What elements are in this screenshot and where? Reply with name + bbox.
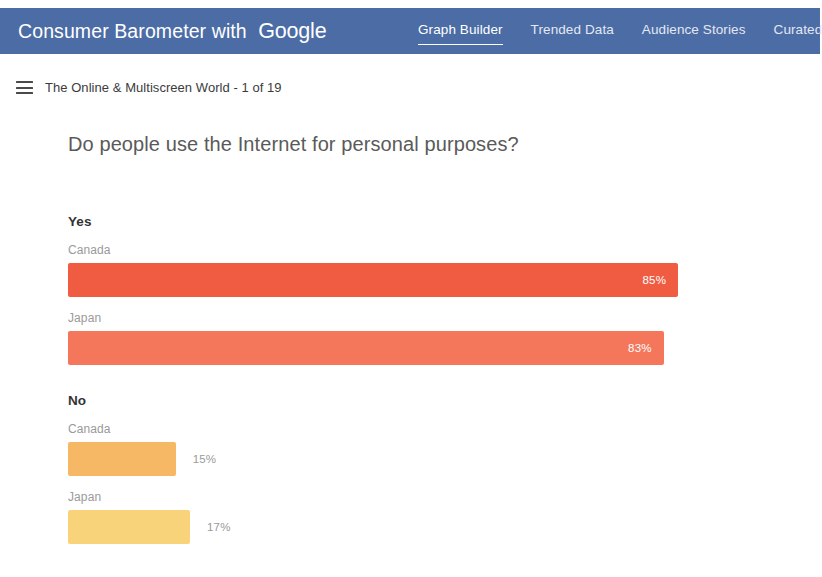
nav-item-graph-builder[interactable]: Graph Builder	[418, 22, 503, 40]
bar-yes-japan[interactable]: 83%	[68, 331, 664, 365]
main-nav: Graph Builder Trended Data Audience Stor…	[418, 8, 822, 54]
nav-item-trended-data[interactable]: Trended Data	[531, 22, 614, 40]
series-yes-canada: Canada 85%	[68, 243, 808, 297]
series-yes-japan: Japan 83%	[68, 311, 808, 365]
brand-google-wordmark: Google	[258, 19, 326, 44]
series-label: Canada	[68, 243, 808, 257]
answer-label-yes: Yes	[68, 214, 808, 229]
bar-no-japan[interactable]	[68, 510, 190, 544]
series-label: Japan	[68, 311, 808, 325]
series-label: Japan	[68, 490, 808, 504]
answer-group-yes: Yes Canada 85% Japan 83%	[68, 214, 808, 365]
bar-chart: Yes Canada 85% Japan 83% No Canada	[68, 214, 808, 562]
breadcrumb: The Online & Multiscreen World - 1 of 19	[16, 80, 282, 95]
answer-group-no: No Canada 15% Japan 17%	[68, 393, 808, 544]
hamburger-icon[interactable]	[16, 81, 33, 94]
series-label: Canada	[68, 422, 808, 436]
bar-row: 15%	[68, 442, 808, 476]
breadcrumb-label: The Online & Multiscreen World - 1 of 19	[45, 80, 282, 95]
series-no-japan: Japan 17%	[68, 490, 808, 544]
page-title: Do people use the Internet for personal …	[68, 133, 519, 156]
bar-row: 85%	[68, 263, 808, 297]
bar-value: 17%	[207, 521, 231, 533]
brand-prefix: Consumer Barometer with	[18, 20, 252, 43]
bar-yes-canada[interactable]: 85%	[68, 263, 678, 297]
group-spacer	[68, 383, 808, 393]
answer-label-no: No	[68, 393, 808, 408]
site-header: Consumer Barometer with Google Graph Bui…	[0, 8, 820, 54]
bar-no-canada[interactable]	[68, 442, 176, 476]
bar-value: 83%	[628, 342, 664, 354]
series-no-canada: Canada 15%	[68, 422, 808, 476]
bar-row: 83%	[68, 331, 808, 365]
nav-item-audience-stories[interactable]: Audience Stories	[642, 22, 746, 40]
brand-title: Consumer Barometer with Google	[18, 19, 326, 44]
bar-value: 85%	[642, 274, 678, 286]
nav-item-curated[interactable]: Curated	[774, 22, 822, 40]
bar-row: 17%	[68, 510, 808, 544]
bar-value: 15%	[193, 453, 217, 465]
